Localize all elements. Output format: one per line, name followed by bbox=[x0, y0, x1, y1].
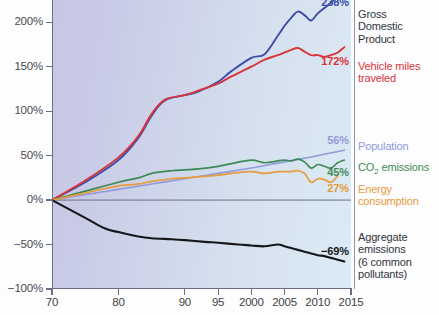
y-axis-label: 100% bbox=[14, 104, 43, 116]
series-line bbox=[52, 0, 344, 200]
x-axis-label: 2015 bbox=[339, 296, 364, 308]
x-axis-tick bbox=[218, 289, 219, 295]
legend: Gross Domestic Product Vehicle miles tra… bbox=[358, 0, 439, 289]
x-axis-tick bbox=[251, 289, 252, 295]
y-axis-tick bbox=[46, 111, 52, 112]
value-label-aggregate-emissions: −69% bbox=[321, 245, 349, 257]
y-axis-label: 150% bbox=[14, 60, 43, 72]
x-axis-label: 2000 bbox=[239, 296, 264, 308]
x-axis-label: 80 bbox=[112, 296, 124, 308]
x-axis-label: 2010 bbox=[305, 296, 330, 308]
legend-co2-prefix: CO bbox=[358, 161, 374, 173]
y-axis-tick bbox=[46, 155, 52, 156]
legend-divider bbox=[354, 0, 355, 289]
x-axis-tick bbox=[184, 289, 185, 295]
y-axis-tick bbox=[46, 244, 52, 245]
x-axis-tick bbox=[350, 289, 351, 295]
chart-root: 200% 150% 100% 50% 0% −50% −100% 70 80 9… bbox=[0, 0, 439, 315]
x-axis-line bbox=[52, 288, 352, 289]
legend-item-co2[interactable]: CO2 emissions bbox=[358, 161, 429, 179]
x-axis-tick bbox=[317, 289, 318, 295]
value-label-population: 56% bbox=[327, 134, 349, 146]
x-axis-label: 95 bbox=[212, 296, 224, 308]
value-label-vehicle-miles: 172% bbox=[321, 55, 349, 67]
legend-co2-suffix: emissions bbox=[379, 161, 429, 173]
series-line bbox=[52, 200, 344, 261]
series-line bbox=[52, 159, 344, 200]
legend-item-population[interactable]: Population bbox=[358, 140, 409, 152]
y-axis-label: 200% bbox=[14, 15, 43, 27]
y-axis-label: −50% bbox=[14, 238, 43, 250]
legend-item-vehicle-miles[interactable]: Vehicle miles traveled bbox=[358, 60, 420, 85]
y-axis-tick bbox=[46, 66, 52, 67]
plot-area bbox=[52, 0, 351, 289]
y-axis-tick bbox=[46, 199, 52, 200]
y-axis-tick bbox=[46, 22, 52, 23]
x-axis-tick bbox=[51, 289, 52, 295]
x-axis-label: 70 bbox=[46, 296, 58, 308]
y-axis-label: −100% bbox=[8, 282, 43, 294]
y-axis-label: 50% bbox=[21, 149, 43, 161]
x-axis-label: 2005 bbox=[272, 296, 297, 308]
x-axis-tick bbox=[118, 289, 119, 295]
x-axis-label: 90 bbox=[179, 296, 191, 308]
value-label-co2: 45% bbox=[327, 166, 349, 178]
x-axis-tick bbox=[284, 289, 285, 295]
legend-item-gdp[interactable]: Gross Domestic Product bbox=[358, 8, 403, 45]
value-label-energy: 27% bbox=[327, 182, 349, 194]
legend-item-aggregate-emissions[interactable]: Aggregate emissions (6 common pollutants… bbox=[358, 231, 412, 281]
value-label-gdp: 238% bbox=[321, 0, 349, 8]
y-axis-label: 0% bbox=[27, 193, 43, 205]
y-axis-line bbox=[52, 0, 53, 289]
series-lines bbox=[52, 0, 351, 289]
legend-item-energy[interactable]: Energy consumption bbox=[358, 183, 419, 208]
